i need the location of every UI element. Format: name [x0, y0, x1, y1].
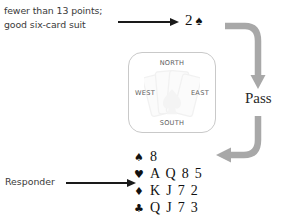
arrow-to-responder-shaft	[230, 116, 258, 155]
responder-pointer-arrow-icon	[66, 178, 138, 188]
arrow-shaft	[66, 182, 129, 184]
diamond-icon: ♦	[134, 183, 150, 200]
heart-icon: ♥	[134, 166, 150, 183]
hand-row-cards: K J 7 2	[150, 182, 199, 199]
club-icon: ♣	[134, 200, 150, 217]
arrow-to-pass-shaft	[225, 26, 258, 76]
annotation-line-2: good six-card suit	[4, 18, 124, 32]
compass-label-south: SOUTH	[160, 119, 185, 127]
compass-label-west: WEST	[135, 89, 155, 97]
hand-row: ♣ Q J 7 3	[134, 199, 203, 216]
bid-label: 2♠	[185, 12, 202, 29]
hand-row-cards: A Q 8 5	[150, 165, 203, 182]
hand-row: ♥ A Q 8 5	[134, 165, 203, 182]
pass-label: Pass	[245, 90, 272, 107]
hand-row: ♠ 8	[134, 148, 203, 165]
bid-level: 2	[185, 12, 193, 28]
spade-icon: ♠	[134, 149, 150, 166]
spade-icon: ♠	[196, 13, 203, 28]
responder-hand: ♠ 8 ♥ A Q 8 5 ♦ K J 7 2 ♣ Q J 7 3	[134, 148, 203, 216]
bid-pointer-arrow-icon	[118, 17, 180, 27]
bridge-bidding-diagram: fewer than 13 points; good six-card suit…	[0, 0, 290, 224]
arrow-to-responder-head	[216, 148, 231, 163]
hand-row: ♦ K J 7 2	[134, 182, 203, 199]
compass-label-north: NORTH	[160, 59, 185, 67]
hand-row-cards: 8	[150, 148, 158, 165]
hand-row-cards: Q J 7 3	[150, 199, 199, 216]
arrow-to-pass-head	[251, 75, 266, 89]
bid-condition-annotation: fewer than 13 points; good six-card suit	[4, 4, 124, 31]
arrow-head	[170, 18, 179, 26]
compass-panel: NORTH WEST EAST SOUTH	[128, 52, 216, 133]
annotation-line-1: fewer than 13 points;	[4, 4, 124, 18]
arrow-shaft	[118, 21, 172, 23]
compass-label-east: EAST	[191, 89, 209, 97]
responder-label: Responder	[5, 176, 55, 187]
